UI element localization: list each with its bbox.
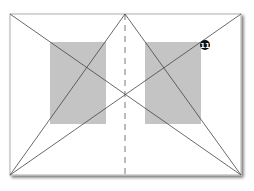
composition-diagram: 11: [0, 0, 254, 191]
right-panel: [145, 42, 201, 124]
left-panel: [50, 42, 106, 124]
marker-badge: 11: [200, 40, 210, 50]
marker-label: 11: [200, 42, 210, 50]
